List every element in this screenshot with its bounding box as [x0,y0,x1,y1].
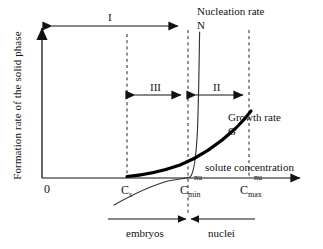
nucleation-rate-curve [114,32,200,205]
y-axis-label: Formation rate of the solid phase [12,21,23,191]
xtick-c-s-sub: s [129,190,132,199]
xtick-c-min-base: C [180,183,188,197]
xtick-c-max-base: C [240,183,248,197]
xtick-c-min-sup: nu [194,174,202,182]
growth-rate-symbol: G [228,126,236,137]
figure-container: Formation rate of the solid phase 0 I II… [0,0,323,249]
xtick-c-s: Cs [121,184,132,199]
xtick-c-max-sup: nu [254,174,262,182]
nucleation-rate-symbol: N [197,20,205,31]
xtick-c-min-nu: Cmin nu [180,184,200,199]
nucleation-rate-label: Nucleation rate [197,6,265,17]
x-axis-label: solute concentration [205,162,294,173]
xtick-c-min-sub: min [188,190,200,199]
phase-label-nuclei: nuclei [208,228,235,239]
origin-label: 0 [44,183,50,195]
xtick-c-max-nu: Cmax nu [240,184,262,199]
region-ii-label: II [213,82,220,93]
diagram-canvas [0,0,323,249]
region-iii-label: III [150,82,161,93]
xtick-c-max-sub: max [248,190,262,199]
xtick-c-s-base: C [121,183,129,197]
region-i-label: I [108,12,112,23]
growth-rate-label: Growth rate [228,112,281,123]
phase-label-embryos: embryos [126,228,164,239]
